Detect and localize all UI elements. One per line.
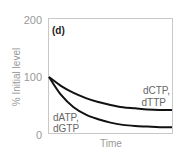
chart: 200 100 0 % Initial level Time (d) dCTP,… <box>0 0 185 157</box>
series-label-dctp-line2: dTTP <box>142 97 167 108</box>
y-tick-100: 100 <box>24 71 42 83</box>
y-tick-0: 0 <box>36 129 42 141</box>
series-label-datp-line1: dATP, <box>53 112 79 123</box>
panel-label: (d) <box>52 25 65 36</box>
x-axis-label: Time <box>100 138 122 149</box>
y-tick-200: 200 <box>24 14 42 26</box>
series-label-datp-line2: dGTP <box>53 123 79 134</box>
y-axis-label: % Initial level <box>11 48 22 106</box>
series-label-dctp-line1: dCTP, <box>143 85 170 96</box>
